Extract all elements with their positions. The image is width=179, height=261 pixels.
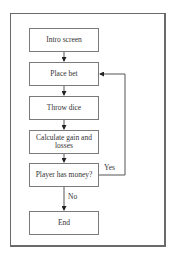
node-place-bet: Place bet	[29, 62, 99, 86]
node-intro-screen: Intro screen	[29, 28, 99, 52]
arrow-loop-yes	[99, 74, 125, 175]
node-label: Place bet	[50, 70, 77, 79]
edge-label-no: No	[68, 192, 77, 201]
node-end: End	[29, 211, 99, 235]
node-label: End	[58, 219, 70, 228]
edge-label-yes: Yes	[104, 163, 115, 172]
node-calculate: Calculate gain and losses	[29, 130, 99, 154]
node-player-has-money: Player has money?	[29, 163, 99, 187]
node-label: Player has money?	[36, 171, 93, 180]
node-label: Throw dice	[47, 104, 81, 113]
node-label: Intro screen	[46, 36, 82, 45]
node-label: Calculate gain and losses	[34, 134, 94, 151]
node-throw-dice: Throw dice	[29, 96, 99, 120]
